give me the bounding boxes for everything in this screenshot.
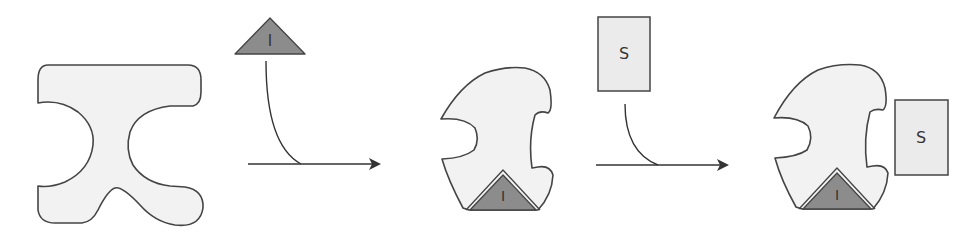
substrate-free: S	[598, 17, 650, 91]
inhibitor-bound-label: I	[501, 188, 505, 204]
diagram-canvas: I I S I	[0, 0, 971, 235]
enzyme-inhibitor-substrate: I S	[774, 65, 948, 209]
substrate-unbound-label: S	[916, 128, 926, 147]
free-enzyme	[38, 65, 203, 225]
enzyme-shape-open	[38, 65, 203, 225]
arrow-1-curve	[266, 61, 301, 164]
substrate-label: S	[619, 44, 629, 63]
inhibitor-label: I	[268, 32, 272, 50]
enzyme-inhibitor: I	[441, 68, 553, 210]
inhibitor-free: I	[235, 18, 305, 54]
allosteric-inhibition-diagram: I I S I	[0, 0, 971, 235]
arrow-2	[596, 104, 729, 171]
inhibitor-bound-label-2: I	[835, 187, 839, 203]
arrow-1	[248, 61, 381, 170]
arrow-2-curve	[625, 104, 658, 165]
